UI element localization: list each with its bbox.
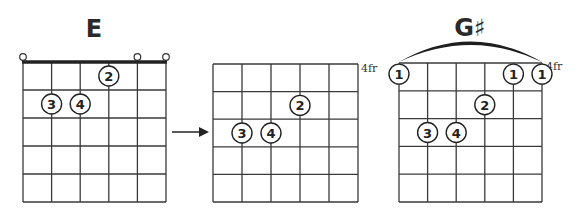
open-string-icon (20, 54, 27, 61)
open-string-icon (134, 54, 141, 61)
finger-number: 4 (76, 97, 85, 112)
finger-number: 1 (537, 67, 546, 82)
barre-arc (399, 42, 542, 63)
finger-number: 3 (423, 126, 432, 141)
fret-position-label-middle: 4fr (361, 62, 378, 75)
chord-title-g-sharp: G♯ (454, 14, 485, 42)
chord-diagram-e-shape-moved: 234 (213, 64, 358, 202)
fretboard-grid (23, 62, 166, 202)
finger-marker: 1 (532, 64, 552, 84)
chord-diagrams-canvas: E G♯ 4fr 4fr 234234111234 (0, 0, 576, 211)
finger-number: 2 (104, 69, 113, 84)
finger-number: 4 (266, 126, 275, 141)
finger-marker: 2 (290, 95, 310, 115)
finger-marker: 4 (261, 123, 281, 143)
open-string-icon (163, 54, 170, 61)
finger-marker: 3 (232, 123, 252, 143)
chord-diagram-g-sharp-chord: 111234 (389, 42, 552, 203)
finger-marker: 4 (70, 94, 90, 114)
finger-marker: 1 (389, 64, 409, 84)
finger-marker: 3 (42, 94, 62, 114)
finger-marker: 4 (446, 123, 466, 143)
chord-title-e: E (86, 15, 102, 43)
finger-number: 4 (452, 126, 461, 141)
finger-marker: 1 (503, 64, 523, 84)
diagram-layer: 234234111234 (20, 42, 552, 203)
finger-number: 2 (480, 98, 489, 113)
finger-number: 3 (237, 126, 246, 141)
finger-number: 3 (47, 97, 56, 112)
finger-marker: 3 (418, 123, 438, 143)
finger-number: 1 (394, 67, 403, 82)
finger-number: 2 (295, 98, 304, 113)
finger-number: 1 (509, 67, 518, 82)
finger-marker: 2 (475, 95, 495, 115)
finger-marker: 2 (99, 66, 119, 86)
transition-arrow (172, 127, 209, 137)
chord-diagram-e-chord: 234 (20, 54, 170, 202)
